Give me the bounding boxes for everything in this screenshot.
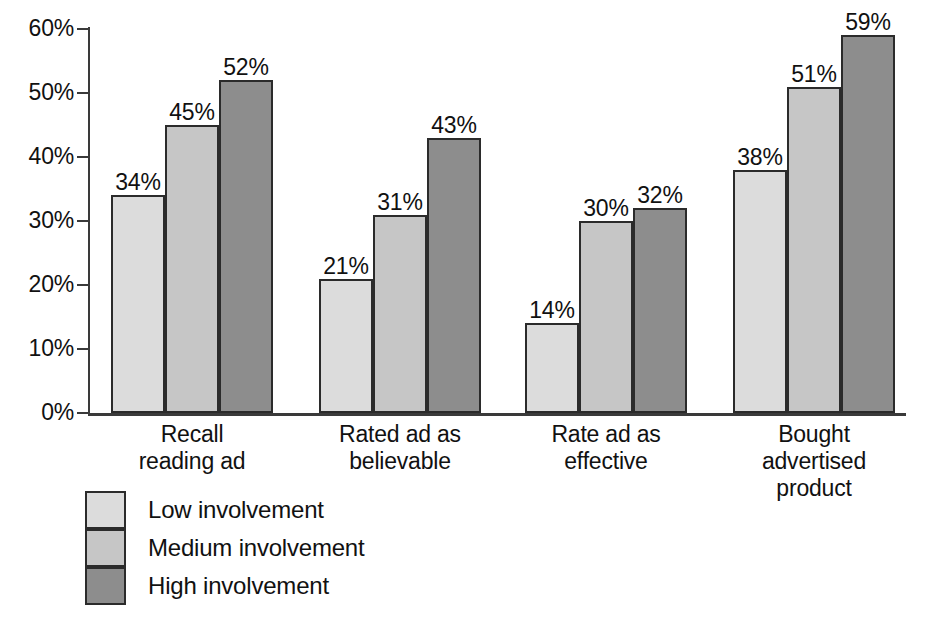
bar: 45% [165,125,219,413]
bar-group: 14%30%32% [525,29,687,413]
y-axis-tick-label: 50% [0,81,74,104]
y-axis-tick-label: 10% [0,337,74,360]
x-axis-category-label: Boughtadvertisedproduct [704,421,924,502]
y-axis-tick-0 [77,412,88,414]
bar-value-label: 32% [637,183,682,208]
category-label-line: Rate ad as [496,421,716,448]
bar: 34% [111,195,165,413]
bar: 31% [373,215,427,413]
bar-value-label: 43% [431,113,476,138]
category-label-line: reading ad [82,448,302,475]
bar-value-label: 51% [791,62,836,87]
bar: 52% [219,80,273,413]
bar: 38% [733,170,787,413]
y-axis-tick-label: 20% [0,273,74,296]
legend-label: High involvement [148,574,329,598]
y-axis-tick-label: 40% [0,145,74,168]
y-axis-tick-30 [77,220,88,222]
bar-value-label: 34% [115,170,160,195]
category-label-line: Rated ad as [290,421,510,448]
legend-item: Low involvement [85,491,365,529]
x-axis-category-label: Recallreading ad [82,421,302,475]
x-axis-category-label: Rated ad asbelievable [290,421,510,475]
bar: 30% [579,221,633,413]
category-label-line: Recall [82,421,302,448]
y-axis-tick-10 [77,348,88,350]
chart-legend: Low involvementMedium involvementHigh in… [85,491,365,605]
y-axis-tick-40 [77,156,88,158]
y-axis-tick-label: 60% [0,17,74,40]
bar: 51% [787,87,841,413]
bar-value-label: 52% [223,55,268,80]
legend-label: Medium involvement [148,536,365,560]
bar: 43% [427,138,481,413]
bar-value-label: 45% [169,100,214,125]
bar-value-label: 14% [529,298,574,323]
x-axis-category-label: Rate ad aseffective [496,421,716,475]
bar: 21% [319,279,373,413]
y-axis-tick-50 [77,92,88,94]
bar-group: 38%51%59% [733,29,895,413]
legend-swatch [85,567,126,605]
bar: 14% [525,323,579,413]
bar-group: 21%31%43% [319,29,481,413]
category-label-line: product [704,475,924,502]
legend-swatch [85,491,126,529]
bar: 32% [633,208,687,413]
y-axis-tick-20 [77,284,88,286]
legend-item: Medium involvement [85,529,365,567]
category-label-line: believable [290,448,510,475]
category-label-line: advertised [704,448,924,475]
bar-value-label: 59% [845,10,890,35]
legend-swatch [85,529,126,567]
category-label-line: effective [496,448,716,475]
bar-value-label: 30% [583,196,628,221]
bar-value-label: 38% [737,145,782,170]
bar-chart: 60%50%40%30%20%10%0% 34%45%52%21%31%43%1… [0,0,927,628]
category-label-line: Bought [704,421,924,448]
bar-value-label: 21% [323,254,368,279]
bar-group: 34%45%52% [111,29,273,413]
y-axis-tick-label: 0% [0,401,74,424]
legend-label: Low involvement [148,498,324,522]
bar-value-label: 31% [377,190,422,215]
legend-item: High involvement [85,567,365,605]
y-axis-tick-label: 30% [0,209,74,232]
y-axis-spine [88,27,90,415]
x-axis-baseline [88,413,906,416]
y-axis-tick-60 [77,28,88,30]
bar: 59% [841,35,895,413]
